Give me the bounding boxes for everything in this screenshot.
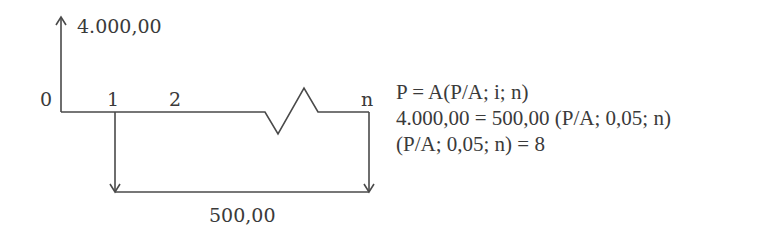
equation-line-3: (P/A; 0,05; n) = 8 xyxy=(396,132,545,157)
inflow-amount-label: 4.000,00 xyxy=(77,15,162,37)
equation-line-1: P = A(P/A; i; n) xyxy=(396,80,528,105)
period-label-n: n xyxy=(361,88,373,110)
equation-line-2: 4.000,00 = 500,00 (P/A; 0,05; n) xyxy=(396,106,671,131)
period-label-1: 1 xyxy=(107,88,119,110)
outflow-amount-label: 500,00 xyxy=(209,204,275,226)
period-label-2: 2 xyxy=(169,88,181,110)
period-label-0: 0 xyxy=(40,88,52,110)
